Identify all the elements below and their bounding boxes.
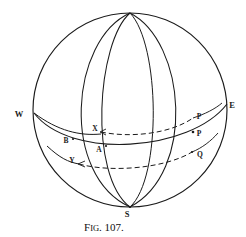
- point-marker-Q: [191, 151, 193, 153]
- figure-container: W E S B X A Y P P Q FIG. 107.: [0, 0, 246, 237]
- label-E: E: [229, 100, 235, 110]
- point-marker-S: [129, 206, 131, 208]
- sphere-outline-circle: [33, 13, 227, 207]
- caption-smallcaps: IG: [90, 223, 99, 233]
- meridian-arc-left-inner: [102, 13, 130, 207]
- label-P-upper: P: [197, 112, 202, 121]
- dashed-arc-upper-X-to-P: [101, 118, 193, 135]
- label-P-lower: P: [197, 129, 202, 138]
- point-marker-A: [105, 145, 107, 147]
- label-W: W: [15, 109, 24, 119]
- dashed-arc-lower-arrowhead: [78, 161, 85, 167]
- meridian-arc-right-inner: [130, 13, 153, 207]
- label-Y: Y: [69, 156, 75, 165]
- label-A: A: [96, 145, 102, 154]
- meridian-arc-left-outer: [81, 13, 130, 207]
- point-marker-P2: [192, 131, 195, 134]
- label-B: B: [63, 136, 68, 145]
- point-marker-B: [72, 138, 74, 140]
- dashed-arc-lower-Y-to-Q: [79, 152, 192, 168]
- label-X: X: [92, 124, 98, 133]
- celestial-sphere-diagram: W E S B X A Y P P Q FIG. 107.: [0, 0, 246, 237]
- figure-caption: FIG. 107.: [84, 221, 124, 233]
- label-S: S: [125, 209, 130, 219]
- label-Q: Q: [197, 150, 203, 159]
- caption-number: . 107.: [99, 221, 124, 233]
